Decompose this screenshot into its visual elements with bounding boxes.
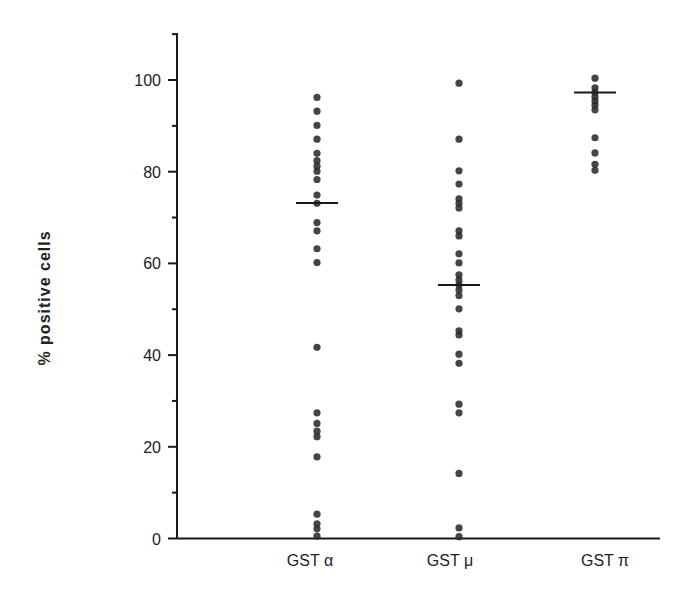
series-gst-alpha xyxy=(296,94,338,540)
data-point xyxy=(313,259,320,266)
category-label-gst-mu: GST μ xyxy=(427,552,473,569)
gst-dot-plot: 020406080100 % positive cells GST α GST … xyxy=(0,0,690,597)
data-point xyxy=(591,134,598,141)
data-point xyxy=(455,305,462,312)
y-axis-title-text: % positive cells xyxy=(36,230,53,365)
data-point xyxy=(455,180,462,187)
data-point xyxy=(313,227,320,234)
data-point xyxy=(455,232,462,239)
data-point xyxy=(591,106,598,113)
data-point xyxy=(455,401,462,408)
data-point xyxy=(455,136,462,143)
data-point xyxy=(313,150,320,157)
y-tick-label: 100 xyxy=(134,72,161,89)
data-point xyxy=(455,331,462,338)
data-point xyxy=(455,409,462,416)
data-point xyxy=(313,344,320,351)
y-tick-label: 0 xyxy=(152,531,161,548)
data-point xyxy=(455,259,462,266)
data-point xyxy=(591,167,598,174)
data-point xyxy=(313,533,320,540)
data-point xyxy=(313,433,320,440)
data-point xyxy=(591,75,598,82)
data-point xyxy=(455,533,462,540)
category-label-gst-pi: GST π xyxy=(581,552,629,569)
data-point xyxy=(313,420,320,427)
category-labels: GST α GST μ GST π xyxy=(287,552,629,569)
data-point xyxy=(455,204,462,211)
data-point xyxy=(313,191,320,198)
data-point xyxy=(455,250,462,257)
series-gst-pi xyxy=(574,75,616,174)
data-point xyxy=(455,167,462,174)
y-tick-label: 20 xyxy=(143,439,161,456)
data-point xyxy=(455,80,462,87)
data-point xyxy=(455,360,462,367)
y-axis: 020406080100 xyxy=(134,33,177,548)
data-point xyxy=(313,122,320,129)
series-gst-mu xyxy=(438,80,480,541)
data-point xyxy=(313,409,320,416)
category-label-gst-alpha: GST α xyxy=(287,552,333,569)
y-axis-title: % positive cells xyxy=(36,230,53,365)
data-point xyxy=(313,136,320,143)
data-point xyxy=(455,292,462,299)
data-point xyxy=(455,524,462,531)
data-point xyxy=(313,525,320,532)
data-point xyxy=(455,470,462,477)
data-point xyxy=(313,176,320,183)
data-point xyxy=(313,108,320,115)
data-point xyxy=(313,168,320,175)
data-point xyxy=(313,453,320,460)
y-tick-label: 60 xyxy=(143,255,161,272)
data-point xyxy=(313,245,320,252)
y-tick-label: 80 xyxy=(143,164,161,181)
data-point xyxy=(313,94,320,101)
y-tick-label: 40 xyxy=(143,347,161,364)
data-point xyxy=(313,219,320,226)
data-point xyxy=(313,511,320,518)
data-series xyxy=(296,75,616,541)
data-point xyxy=(591,149,598,156)
data-point xyxy=(455,351,462,358)
